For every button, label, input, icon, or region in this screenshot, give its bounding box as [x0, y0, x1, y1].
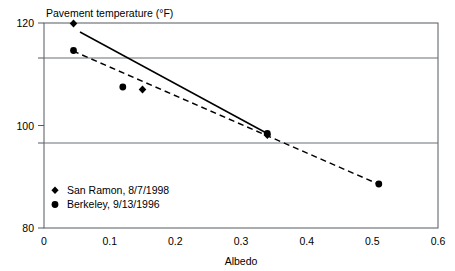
series-berkeley-points [70, 47, 382, 187]
trend-line-san-ramon [80, 32, 270, 135]
legend-marker-circle-icon [52, 201, 59, 208]
x-axis-label: Albedo [225, 255, 258, 267]
data-point-berkeley-2 [119, 84, 126, 91]
gridlines-horizontal [44, 58, 438, 143]
pavement-temperature-scatter-chart: 120 100 80 0 0.1 0.2 0.3 0.4 0.5 0.6 Pav… [0, 0, 455, 271]
xtick-label-0.6: 0.6 [431, 235, 446, 247]
data-point-berkeley-1 [70, 47, 77, 54]
x-axis-tick-labels: 0 0.1 0.2 0.3 0.4 0.5 0.6 [41, 235, 445, 247]
chart-title: Pavement temperature (°F) [46, 7, 173, 19]
trend-line-berkeley [73, 51, 378, 184]
data-point-berkeley-4 [375, 181, 382, 188]
xtick-label-0.5: 0.5 [365, 235, 380, 247]
legend-label-san-ramon: San Ramon, 8/7/1998 [67, 184, 169, 196]
xtick-label-0: 0 [41, 235, 47, 247]
xtick-label-0.3: 0.3 [234, 235, 249, 247]
legend-label-berkeley: Berkeley, 9/13/1996 [67, 198, 160, 210]
ytick-label-80: 80 [22, 222, 34, 234]
xtick-label-0.2: 0.2 [168, 235, 183, 247]
y-axis-tick-labels: 120 100 80 [16, 17, 34, 234]
data-point-san-ramon-1 [70, 20, 78, 28]
chart-container: 120 100 80 0 0.1 0.2 0.3 0.4 0.5 0.6 Pav… [0, 0, 455, 271]
chart-legend: San Ramon, 8/7/1998 Berkeley, 9/13/1996 [51, 184, 169, 210]
xtick-label-0.4: 0.4 [299, 235, 314, 247]
y-axis-ticks [38, 23, 44, 228]
series-san-ramon-points [70, 20, 271, 140]
plot-frame [44, 23, 438, 228]
ytick-label-100: 100 [16, 120, 34, 132]
legend-marker-diamond-icon [51, 187, 58, 195]
xtick-label-0.1: 0.1 [102, 235, 117, 247]
plot-area-border [44, 23, 438, 228]
ytick-label-120: 120 [16, 17, 34, 29]
data-point-san-ramon-2 [139, 85, 147, 93]
